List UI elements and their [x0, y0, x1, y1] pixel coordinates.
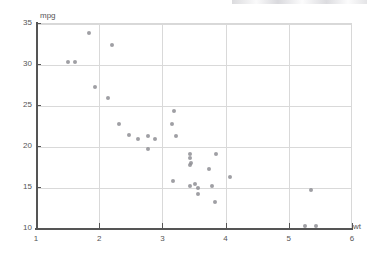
- scatter-plot-chart: 101520253035 123456 mpg wt: [0, 0, 367, 257]
- y-tick-label: 25: [6, 100, 32, 109]
- y-tick-mark: [36, 105, 41, 106]
- data-point: [213, 200, 217, 204]
- y-tick-mark: [36, 228, 41, 229]
- x-tick-mark: [36, 223, 37, 228]
- data-point: [171, 179, 175, 183]
- x-tick-label: 4: [216, 234, 236, 243]
- x-tick-label: 2: [89, 234, 109, 243]
- data-point: [196, 186, 200, 190]
- x-tick-mark: [226, 223, 227, 228]
- gridline-horizontal: [36, 147, 351, 148]
- gridline-vertical: [162, 24, 163, 228]
- y-tick-label: 30: [6, 59, 32, 68]
- data-point: [136, 137, 140, 141]
- gridline-vertical: [289, 24, 290, 228]
- data-point: [214, 152, 218, 156]
- data-point: [309, 188, 313, 192]
- x-tick-label: 3: [152, 234, 172, 243]
- y-tick-mark: [36, 146, 41, 147]
- scan-artifact: [232, 0, 367, 4]
- gridline-horizontal: [36, 106, 351, 107]
- data-point: [188, 163, 192, 167]
- y-tick-mark: [36, 187, 41, 188]
- y-tick-label: 20: [6, 141, 32, 150]
- y-tick-label: 35: [6, 18, 32, 27]
- data-point: [93, 85, 97, 89]
- data-point: [174, 134, 178, 138]
- data-point: [117, 122, 121, 126]
- data-point: [188, 152, 192, 156]
- gridline-horizontal: [36, 24, 351, 25]
- y-tick-label: 10: [6, 223, 32, 232]
- x-tick-label: 1: [26, 234, 46, 243]
- data-point: [228, 175, 232, 179]
- plot-area: [36, 23, 352, 228]
- data-point: [87, 31, 91, 35]
- y-tick-label: 15: [6, 182, 32, 191]
- x-tick-mark: [99, 223, 100, 228]
- x-tick-mark: [289, 223, 290, 228]
- data-point: [106, 96, 110, 100]
- x-axis-title: wt: [353, 222, 361, 231]
- data-point: [146, 147, 150, 151]
- data-point: [188, 156, 192, 160]
- x-tick-label: 6: [342, 234, 362, 243]
- data-point: [153, 137, 157, 141]
- data-point: [73, 60, 77, 64]
- y-tick-mark: [36, 64, 41, 65]
- gridline-vertical: [99, 24, 100, 228]
- data-point: [207, 167, 211, 171]
- data-point: [146, 134, 150, 138]
- x-tick-label: 5: [279, 234, 299, 243]
- data-point: [170, 122, 174, 126]
- x-tick-mark: [162, 223, 163, 228]
- y-axis-line: [36, 22, 38, 229]
- data-point: [127, 133, 131, 137]
- data-point: [172, 109, 176, 113]
- data-point: [110, 43, 114, 47]
- gridline-horizontal: [36, 65, 351, 66]
- y-tick-mark: [36, 23, 41, 24]
- data-point: [196, 192, 200, 196]
- gridline-vertical: [226, 24, 227, 228]
- x-axis-line: [35, 228, 353, 230]
- gridline-horizontal: [36, 188, 351, 189]
- data-point: [66, 60, 70, 64]
- y-axis-title: mpg: [40, 11, 56, 20]
